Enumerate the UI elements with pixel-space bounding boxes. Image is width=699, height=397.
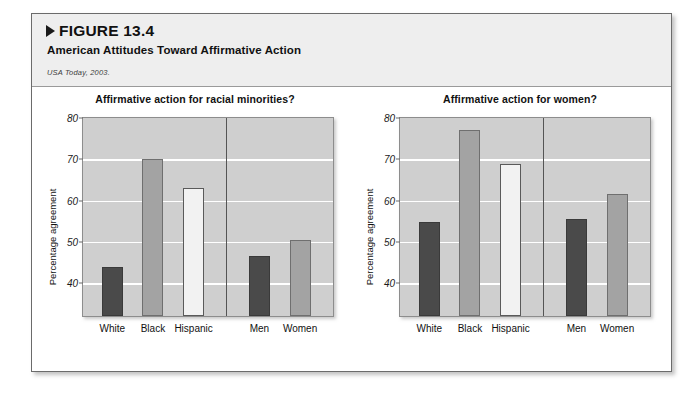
x-axis-label-hispanic: Hispanic <box>491 323 529 334</box>
y-tick-label: 40 <box>67 278 78 289</box>
y-tick-label: 50 <box>384 236 395 247</box>
y-axis-label: Percentage agreement <box>47 189 58 286</box>
bar-men <box>249 256 270 316</box>
y-tick-label: 40 <box>384 278 395 289</box>
triangle-marker-icon <box>46 25 55 37</box>
group-divider <box>543 118 544 316</box>
gridline <box>400 159 650 161</box>
y-tick-mark <box>396 241 400 242</box>
bar-white <box>419 222 440 316</box>
y-tick-label: 80 <box>67 113 78 124</box>
x-axis-label-black: Black <box>141 323 165 334</box>
figure-container: FIGURE 13.4 American Attitudes Toward Af… <box>31 13 672 372</box>
bar-black <box>459 130 480 316</box>
x-axis-label-men: Men <box>250 323 269 334</box>
x-axis-label-white: White <box>416 323 442 334</box>
bar-women <box>607 194 628 316</box>
gridline <box>83 159 333 161</box>
plot-area: 4050607080WhiteBlackHispanicMenWomen <box>82 117 334 317</box>
chart-women: Affirmative action for women? Percentage… <box>357 87 667 371</box>
x-axis-label-men: Men <box>567 323 586 334</box>
chart-title: Affirmative action for women? <box>357 93 667 105</box>
y-tick-mark <box>79 200 83 201</box>
bar-white <box>102 267 123 317</box>
y-tick-mark <box>79 159 83 160</box>
bar-hispanic <box>500 164 521 316</box>
figure-source: USA Today, 2003. <box>47 68 110 77</box>
y-tick-label: 60 <box>384 195 395 206</box>
y-tick-mark <box>79 241 83 242</box>
figure-number-row: FIGURE 13.4 <box>46 22 154 40</box>
group-divider <box>226 118 227 316</box>
x-axis-label-hispanic: Hispanic <box>174 323 212 334</box>
y-tick-mark <box>79 283 83 284</box>
figure-header: FIGURE 13.4 American Attitudes Toward Af… <box>32 14 671 87</box>
plot-area: 4050607080WhiteBlackHispanicMenWomen <box>399 117 651 317</box>
y-tick-mark <box>396 159 400 160</box>
gridline <box>83 201 333 203</box>
chart-title: Affirmative action for racial minorities… <box>40 93 350 105</box>
figure-number: FIGURE 13.4 <box>59 22 154 40</box>
figure-caption: American Attitudes Toward Affirmative Ac… <box>47 44 301 56</box>
bar-men <box>566 219 587 316</box>
y-tick-mark <box>396 118 400 119</box>
y-tick-mark <box>396 200 400 201</box>
y-tick-label: 50 <box>67 236 78 247</box>
chart-racial-minorities: Affirmative action for racial minorities… <box>40 87 350 371</box>
charts-area: Affirmative action for racial minorities… <box>32 87 671 371</box>
y-tick-mark <box>79 118 83 119</box>
bar-women <box>290 240 311 316</box>
y-tick-label: 80 <box>384 113 395 124</box>
y-tick-mark <box>396 283 400 284</box>
x-axis-label-women: Women <box>600 323 634 334</box>
bar-hispanic <box>183 188 204 316</box>
x-axis-label-black: Black <box>458 323 482 334</box>
x-axis-label-women: Women <box>283 323 317 334</box>
y-tick-label: 60 <box>67 195 78 206</box>
y-tick-label: 70 <box>384 154 395 165</box>
y-axis-label: Percentage agreement <box>364 189 375 286</box>
x-axis-label-white: White <box>99 323 125 334</box>
bar-black <box>142 159 163 316</box>
y-tick-label: 70 <box>67 154 78 165</box>
